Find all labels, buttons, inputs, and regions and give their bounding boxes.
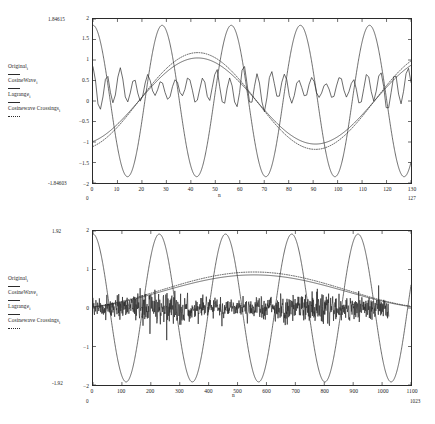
legend-item-original-label: Originali <box>8 276 94 284</box>
bottom-chart-ymin-annotation: -1.92 <box>52 380 63 386</box>
legend-item-original-label: Originali <box>8 64 94 72</box>
legend-subscript: i <box>59 108 60 113</box>
legend-key-cosinewave-crossings <box>8 326 20 330</box>
x-tick-label: 90 <box>302 186 326 192</box>
bottom-chart-panel: Originali CosineWavei Lagrangei Cosinewa… <box>0 212 435 424</box>
top-plot-area[interactable] <box>92 18 412 184</box>
x-tick-label: 900 <box>342 388 366 394</box>
y-tick-label: 2 <box>73 15 89 21</box>
x-tick-label: 10 <box>105 186 129 192</box>
x-tick-label: 400 <box>196 388 220 394</box>
x-tick-label: 50 <box>203 186 227 192</box>
legend-item-original: Originali <box>8 64 94 76</box>
x-tick-label: 130 <box>400 186 424 192</box>
x-tick-label: 100 <box>109 388 133 394</box>
y-tick-label: 0 <box>73 305 89 311</box>
top-chart-x-axis-label: n <box>218 192 221 198</box>
x-tick-label: 0 <box>80 388 104 394</box>
x-tick-label: 70 <box>252 186 276 192</box>
legend-subscript: i <box>27 66 28 71</box>
top-chart-ymin-annotation: -1.84603 <box>48 180 67 186</box>
x-tick-label: 500 <box>226 388 250 394</box>
legend-subscript: i <box>29 306 30 311</box>
legend-key-cosinewave <box>8 298 20 302</box>
top-plot-canvas <box>93 19 411 183</box>
x-tick-label: 40 <box>179 186 203 192</box>
x-tick-label: 110 <box>351 186 375 192</box>
legend-subscript: i <box>36 80 37 85</box>
x-tick-label: 1100 <box>400 388 424 394</box>
top-chart-legend: Originali CosineWavei Lagrangei Cosinewa… <box>8 64 94 120</box>
x-tick-label: 80 <box>277 186 301 192</box>
x-tick-label: 60 <box>228 186 252 192</box>
legend-item-cosinewave-crossings: Cosinewave Crossingsi <box>8 106 94 118</box>
x-tick-label: 30 <box>154 186 178 192</box>
legend-subscript: i <box>36 292 37 297</box>
x-tick-label: 200 <box>138 388 162 394</box>
x-tick-label: 700 <box>284 388 308 394</box>
y-tick-label: 0.5 <box>73 77 89 83</box>
x-tick-label: 100 <box>326 186 350 192</box>
legend-key-cosinewave <box>8 86 20 90</box>
bottom-chart-x-axis-label: n <box>232 392 235 398</box>
y-tick-label: −1 <box>73 139 89 145</box>
bottom-plot-area[interactable] <box>92 230 412 386</box>
y-tick-label: 1 <box>73 56 89 62</box>
legend-subscript: i <box>29 94 30 99</box>
legend-item-cosinewave-crossings: Cosinewave Crossingsi <box>8 318 94 330</box>
top-chart-ymax-annotation: 1.84615 <box>48 16 65 22</box>
bottom-chart-xmax-annotation: 1023 <box>410 398 420 404</box>
legend-subscript: i <box>59 320 60 325</box>
legend-item-cosinewave-crossings-label: Cosinewave Crossingsi <box>8 318 94 326</box>
y-tick-label: −1 <box>73 344 89 350</box>
legend-key-lagrange <box>8 100 20 104</box>
y-tick-label: 2 <box>73 227 89 233</box>
legend-item-cosinewave: CosineWavei <box>8 290 94 302</box>
legend-item-cosinewave-crossings-label: Cosinewave Crossingsi <box>8 106 94 114</box>
legend-key-original <box>8 72 20 76</box>
bottom-chart-ymax-annotation: 1.92 <box>52 228 61 234</box>
x-tick-label: 1000 <box>371 388 395 394</box>
legend-subscript: i <box>27 278 28 283</box>
y-tick-label: −0.5 <box>73 118 89 124</box>
top-chart-xmin-annotation: 0 <box>86 195 89 201</box>
legend-key-lagrange <box>8 312 20 316</box>
bottom-plot-canvas <box>93 231 411 385</box>
legend-item-cosinewave-label: CosineWavei <box>8 290 94 298</box>
y-tick-label: −1.5 <box>73 160 89 166</box>
legend-item-original: Originali <box>8 276 94 288</box>
x-tick-label: 300 <box>167 388 191 394</box>
x-tick-label: 800 <box>313 388 337 394</box>
bottom-chart-xmin-annotation: 0 <box>86 398 89 404</box>
y-tick-label: 1 <box>73 266 89 272</box>
legend-key-original <box>8 284 20 288</box>
x-tick-label: 120 <box>375 186 399 192</box>
legend-key-cosinewave-crossings <box>8 114 20 118</box>
y-tick-label: 1.5 <box>73 35 89 41</box>
x-tick-label: 20 <box>129 186 153 192</box>
y-tick-label: 0 <box>73 98 89 104</box>
x-tick-label: 600 <box>255 388 279 394</box>
top-chart-panel: Originali CosineWavei Lagrangei Cosinewa… <box>0 0 435 212</box>
x-tick-label: 0 <box>80 186 104 192</box>
top-chart-xmax-annotation: 127 <box>408 195 416 201</box>
